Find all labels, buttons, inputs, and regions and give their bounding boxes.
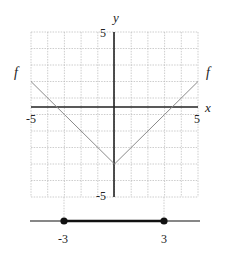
- y-axis-label: y: [111, 10, 119, 25]
- tick-label-x-min: -5: [26, 112, 36, 126]
- tick-label-y-max: 5: [100, 26, 106, 40]
- endpoint-dot-left: [60, 217, 67, 224]
- endpoint-dot-right: [160, 217, 167, 224]
- function-graph-figure: y x f f 5 -5 5 -5 -3 3: [0, 0, 226, 255]
- number-line-label-left: -3: [58, 232, 68, 246]
- tick-label-y-min: -5: [96, 189, 106, 203]
- curve-label-left: f: [14, 65, 20, 80]
- x-axis-label: x: [204, 100, 211, 115]
- curve-label-right: f: [206, 65, 212, 80]
- tick-label-x-max: 5: [194, 112, 200, 126]
- number-line-label-right: 3: [161, 232, 167, 246]
